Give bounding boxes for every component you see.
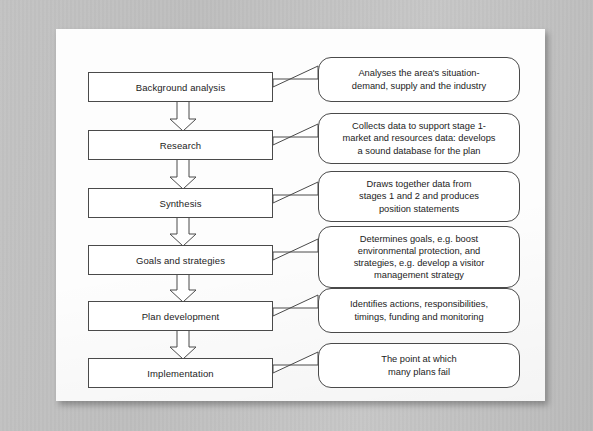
callout-line: market and resources data: develops bbox=[343, 132, 496, 144]
callout-text: Collects data to support stage 1- market… bbox=[343, 120, 496, 157]
callout-tail-4 bbox=[273, 239, 318, 260]
callout-line: timings, funding and monitoring bbox=[350, 311, 488, 323]
diagram-screenshot: Background analysis Research Synthesis G… bbox=[0, 0, 593, 431]
process-box-label: Plan development bbox=[142, 311, 220, 322]
callout-stage-6[interactable]: The point at which many plans fail bbox=[318, 343, 520, 388]
callout-text: Identifies actions, responsibilities, ti… bbox=[350, 298, 488, 322]
flow-arrow-4-5 bbox=[170, 275, 196, 302]
callout-text: Draws together data from stages 1 and 2 … bbox=[359, 178, 479, 215]
callout-tail-5 bbox=[273, 295, 318, 316]
callout-line: management strategy bbox=[354, 269, 485, 281]
callout-line: Analyses the area's situation- bbox=[352, 67, 486, 79]
callout-line: stages 1 and 2 and produces bbox=[359, 190, 479, 202]
callout-line: a sound database for the plan bbox=[343, 145, 496, 157]
process-box-stage-4[interactable]: Goals and strategies bbox=[88, 245, 273, 275]
callout-text: Analyses the area's situation- demand, s… bbox=[352, 67, 486, 91]
process-box-stage-5[interactable]: Plan development bbox=[88, 301, 273, 331]
callout-tail-6 bbox=[273, 352, 318, 373]
callout-stage-1[interactable]: Analyses the area's situation- demand, s… bbox=[318, 57, 520, 102]
process-box-label: Research bbox=[160, 140, 201, 151]
callout-tail-1 bbox=[273, 66, 318, 87]
process-box-label: Background analysis bbox=[136, 82, 226, 93]
callout-stage-2[interactable]: Collects data to support stage 1- market… bbox=[318, 113, 520, 164]
callout-line: demand, supply and the industry bbox=[352, 80, 486, 92]
callout-tail-3 bbox=[273, 182, 318, 203]
callout-line: Draws together data from bbox=[359, 178, 479, 190]
callout-line: position statements bbox=[359, 203, 479, 215]
callout-line: many plans fail bbox=[381, 366, 456, 378]
callout-tail-2 bbox=[273, 124, 318, 145]
callout-stage-3[interactable]: Draws together data from stages 1 and 2 … bbox=[318, 171, 520, 222]
callout-line: Collects data to support stage 1- bbox=[343, 120, 496, 132]
callout-line: The point at which bbox=[381, 353, 456, 365]
flow-arrow-3-4 bbox=[170, 218, 196, 246]
process-box-label: Goals and strategies bbox=[136, 255, 225, 266]
flow-arrow-5-6 bbox=[170, 331, 196, 359]
process-box-stage-3[interactable]: Synthesis bbox=[88, 188, 273, 218]
process-box-stage-2[interactable]: Research bbox=[88, 130, 273, 160]
callout-line: environmental protection, and bbox=[354, 245, 485, 257]
callout-line: strategies, e.g. develop a visitor bbox=[354, 257, 485, 269]
flow-arrow-1-2 bbox=[170, 102, 196, 131]
callout-stage-4[interactable]: Determines goals, e.g. boost environment… bbox=[318, 226, 520, 288]
process-box-label: Implementation bbox=[147, 368, 213, 379]
callout-text: Determines goals, e.g. boost environment… bbox=[354, 233, 485, 282]
flow-arrow-2-3 bbox=[170, 160, 196, 189]
callout-line: Determines goals, e.g. boost bbox=[354, 233, 485, 245]
callout-line: Identifies actions, responsibilities, bbox=[350, 298, 488, 310]
process-box-label: Synthesis bbox=[159, 198, 201, 209]
callout-stage-5[interactable]: Identifies actions, responsibilities, ti… bbox=[318, 288, 520, 333]
process-box-stage-1[interactable]: Background analysis bbox=[88, 72, 273, 102]
callout-text: The point at which many plans fail bbox=[381, 353, 456, 377]
process-box-stage-6[interactable]: Implementation bbox=[88, 358, 273, 388]
